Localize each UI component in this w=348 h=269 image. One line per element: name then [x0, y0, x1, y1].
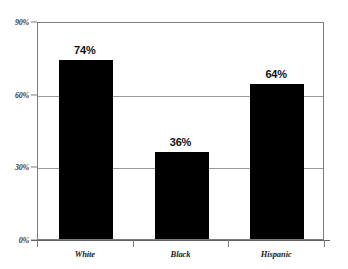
bar — [155, 152, 209, 239]
x-tick-label: Hispanic — [261, 249, 292, 259]
y-tick-label: 90% — [15, 18, 29, 27]
x-tick-mark — [324, 240, 325, 247]
x-axis-line — [31, 240, 330, 241]
y-tick-label: 60% — [15, 90, 29, 99]
x-tick-mark — [133, 240, 134, 247]
bar-value-label: 36% — [170, 136, 191, 148]
chart-screenshot: 0%30%60%90% WhiteBlackHispanic 74%36%64% — [0, 0, 348, 269]
y-tick-mark — [31, 94, 37, 95]
y-tick-mark — [31, 167, 37, 168]
x-tick-label: Black — [171, 249, 191, 259]
y-axis: 0%30%60%90% — [0, 0, 37, 269]
x-tick-mark — [228, 240, 229, 247]
bar — [59, 60, 113, 239]
x-axis: WhiteBlackHispanic — [0, 240, 348, 269]
y-tick-mark — [31, 22, 37, 23]
bar — [250, 84, 304, 239]
x-tick-label: White — [75, 249, 95, 259]
x-tick-mark — [37, 240, 38, 247]
bar-value-label: 64% — [265, 68, 286, 80]
y-tick-label: 30% — [15, 163, 29, 172]
bar-value-label: 74% — [74, 44, 95, 56]
